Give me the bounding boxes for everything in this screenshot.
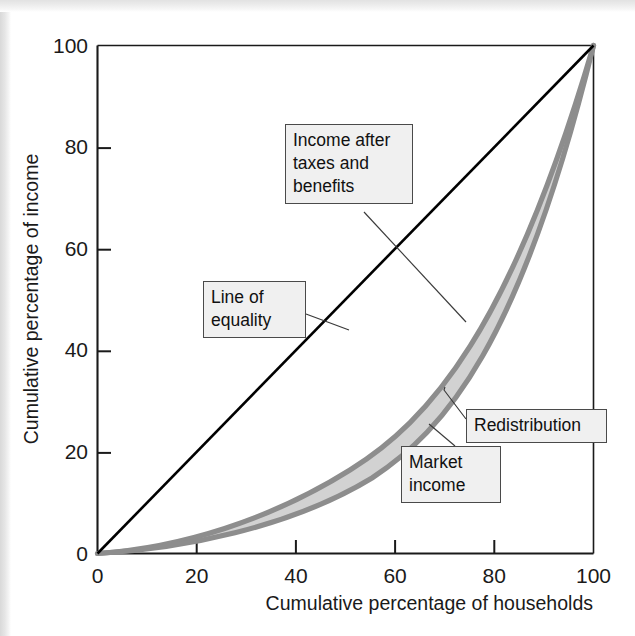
x-tick-label-40: 40: [284, 564, 307, 587]
y-tick-label-100: 100: [53, 34, 88, 57]
figure-page: 0 20 40 60 80 100 0 20 40 60 80 100 Cumu…: [0, 0, 635, 636]
x-tick-label-20: 20: [185, 564, 208, 587]
y-axis-ticks: [98, 148, 112, 453]
y-tick-label-80: 80: [65, 135, 88, 158]
callout-market-income: Market income: [401, 446, 501, 503]
x-tick-label-80: 80: [483, 564, 506, 587]
y-tick-label-20: 20: [65, 440, 88, 463]
y-tick-label-0: 0: [76, 542, 88, 565]
y-tick-label-40: 40: [65, 338, 88, 361]
lorenz-curve-chart: 0 20 40 60 80 100 0 20 40 60 80 100 Cumu…: [0, 0, 635, 636]
y-tick-label-60: 60: [65, 237, 88, 260]
callout-redistribution: Redistribution: [466, 409, 607, 443]
y-tick-labels: 0 20 40 60 80 100: [53, 34, 88, 565]
callout-line-of-equality: Line of equality: [203, 281, 306, 338]
x-tick-label-60: 60: [383, 564, 406, 587]
y-axis-title: Cumulative percentage of income: [20, 154, 42, 445]
x-tick-labels: 0 20 40 60 80 100: [92, 564, 611, 587]
x-tick-label-0: 0: [92, 564, 104, 587]
x-tick-label-100: 100: [576, 564, 611, 587]
x-axis-ticks: [197, 540, 495, 554]
callout-income-after-taxes-and-benefits: Income after taxes and benefits: [285, 124, 413, 204]
x-axis-title: Cumulative percentage of households: [266, 592, 594, 614]
leader-market-income: [429, 424, 455, 446]
